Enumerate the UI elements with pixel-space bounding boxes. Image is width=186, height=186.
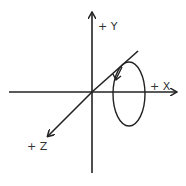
y-axis-label: + Y — [98, 20, 118, 33]
z-axis — [48, 92, 92, 136]
rotation-loop — [113, 62, 145, 126]
axes-diagram: + Y + X + Z — [0, 0, 186, 186]
z-axis-label: + Z — [27, 140, 48, 153]
x-axis-label: + X — [150, 80, 171, 93]
z-axis-back — [92, 51, 138, 92]
